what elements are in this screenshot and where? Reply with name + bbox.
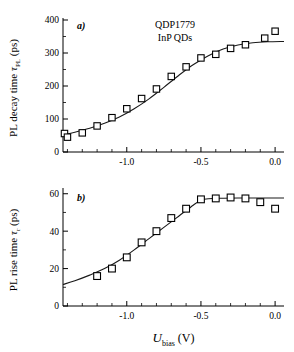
data-point-marker	[79, 130, 85, 136]
data-point-marker	[183, 205, 190, 212]
data-point-marker	[213, 51, 219, 57]
panel-b-plot: 0204060-1.0-0.50.0b)PL rise time τr (ps)…	[0, 176, 294, 352]
panel-a-pl-decay-time: 0100200300400-1.0-0.50.0a)QDP1779InP QDs…	[0, 0, 294, 176]
x-axis-title: Ubias (V)	[153, 330, 195, 348]
x-tick-label: 0.0	[269, 311, 281, 321]
x-tick-label: -0.5	[193, 311, 208, 321]
y-tick-label: 0	[54, 147, 59, 157]
data-point-marker	[242, 42, 248, 48]
data-point-marker	[212, 195, 219, 202]
y-tick-label: 400	[45, 15, 60, 25]
data-point-marker	[153, 86, 159, 92]
x-tick-label: -1.0	[119, 157, 134, 167]
data-point-marker	[198, 196, 205, 203]
data-point-marker	[257, 199, 264, 206]
x-tick-label: 0.0	[269, 157, 281, 167]
fit-curve	[63, 41, 284, 134]
y-tick-label: 200	[45, 81, 60, 91]
data-point-marker	[138, 239, 145, 246]
figure-container: 0100200300400-1.0-0.50.0a)QDP1779InP QDs…	[0, 0, 294, 352]
data-point-marker	[168, 215, 175, 222]
y-tick-label: 20	[50, 264, 60, 274]
panel-b-y-axis-title: PL rise time τr (ps)	[7, 209, 22, 292]
annotation-sample-id: QDP1779	[155, 19, 195, 30]
data-point-marker	[272, 28, 278, 34]
panel-b-label: b)	[77, 192, 85, 204]
data-point-marker	[242, 195, 249, 202]
y-tick-label: 40	[50, 227, 60, 237]
data-point-marker	[183, 64, 189, 70]
data-point-marker	[227, 194, 234, 201]
x-tick-label: -1.0	[119, 311, 134, 321]
data-point-marker	[94, 123, 100, 129]
y-tick-label: 0	[54, 301, 59, 311]
data-point-marker	[272, 205, 279, 212]
data-point-marker	[168, 73, 174, 79]
panel-a-y-axis-title: PL decay time τPL (ps)	[7, 39, 22, 137]
data-point-marker	[198, 55, 204, 61]
panel-b-pl-rise-time: 0204060-1.0-0.50.0b)PL rise time τr (ps)…	[0, 176, 294, 352]
data-point-marker	[64, 134, 70, 140]
x-tick-label: -0.5	[193, 157, 208, 167]
y-tick-label: 60	[50, 189, 60, 199]
data-point-marker	[227, 45, 233, 51]
data-point-marker	[94, 273, 101, 280]
data-point-marker	[109, 114, 115, 120]
panel-a-plot: 0100200300400-1.0-0.50.0a)QDP1779InP QDs…	[0, 0, 294, 176]
data-point-marker	[123, 254, 130, 261]
data-point-marker	[124, 106, 130, 112]
panel-a-label: a)	[77, 20, 85, 32]
y-tick-label: 300	[45, 48, 60, 58]
fit-curve	[63, 198, 284, 284]
y-tick-label: 100	[45, 114, 60, 124]
data-point-marker	[153, 228, 160, 235]
data-point-marker	[138, 95, 144, 101]
data-point-marker	[109, 265, 116, 272]
annotation-material: InP QDs	[158, 32, 192, 43]
data-point-marker	[262, 35, 268, 41]
